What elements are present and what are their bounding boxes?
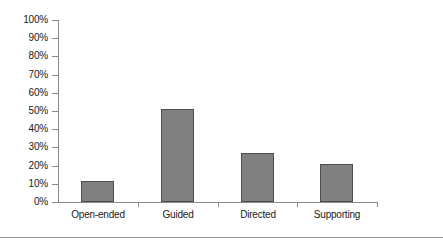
x-axis-category-label: Guided (138, 209, 218, 221)
y-axis-tick (52, 38, 58, 39)
y-axis-label: 80% (29, 51, 48, 61)
bar (161, 109, 194, 202)
x-axis-category-label: Directed (218, 209, 298, 221)
y-axis-line (58, 20, 59, 203)
y-axis-label: 0% (34, 197, 48, 207)
bar-chart: 0%10%20%30%40%50%60%70%80%90%100% Open-e… (0, 0, 443, 225)
x-axis-tick (377, 202, 378, 207)
y-axis-label: 20% (29, 161, 48, 171)
y-axis-label: 40% (29, 124, 48, 134)
x-axis-category-label: Supporting (297, 209, 377, 221)
y-axis-label: 100% (23, 15, 48, 25)
y-axis-label: 50% (29, 106, 48, 116)
y-axis-tick (52, 111, 58, 112)
x-axis-tick (138, 202, 139, 207)
bar (81, 181, 114, 202)
y-axis-tick (52, 129, 58, 130)
y-axis-tick (52, 20, 58, 21)
x-axis-tick (218, 202, 219, 207)
y-axis-label: 30% (29, 142, 48, 152)
y-axis-tick (52, 166, 58, 167)
y-axis-label: 10% (29, 179, 48, 189)
y-axis-tick (52, 147, 58, 148)
y-axis-label: 90% (29, 33, 48, 43)
x-axis-category-label: Open-ended (58, 209, 138, 221)
y-axis-tick (52, 75, 58, 76)
y-axis-tick (52, 56, 58, 57)
chart-page: 0%10%20%30%40%50%60%70%80%90%100% Open-e… (0, 0, 443, 242)
y-axis-tick (52, 93, 58, 94)
bar (241, 153, 274, 202)
y-axis-tick (52, 184, 58, 185)
bar (320, 164, 353, 202)
y-axis-tick (52, 202, 58, 203)
x-axis-tick (297, 202, 298, 207)
bottom-divider (0, 237, 443, 238)
y-axis-label: 70% (29, 70, 48, 80)
y-axis-label: 60% (29, 88, 48, 98)
